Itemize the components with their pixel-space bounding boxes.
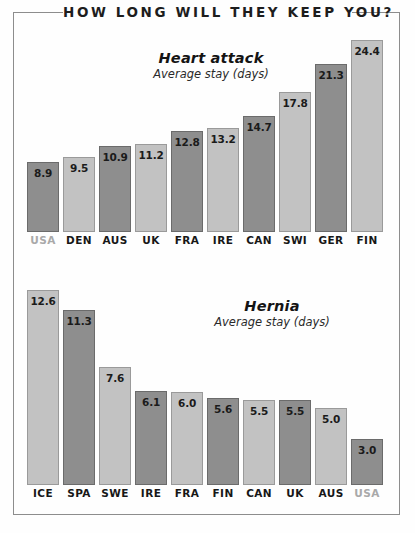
bar-swe[interactable]: 7.6 [99, 367, 131, 485]
bar-slot: 21.3 [315, 40, 347, 232]
axis-label-usa: USA [27, 234, 59, 247]
bar-can[interactable]: 14.7 [243, 116, 275, 232]
bar-ger[interactable]: 21.3 [315, 64, 347, 232]
axis-label-ire: IRE [135, 487, 167, 500]
bar-slot: 13.2 [207, 40, 239, 232]
axis-label-ire: IRE [207, 234, 239, 247]
axis-label-usa: USA [351, 487, 383, 500]
bar-swi[interactable]: 17.8 [279, 92, 311, 232]
bar-fra[interactable]: 12.8 [171, 131, 203, 232]
chart-hernia-category-axis: ICESPASWEIREFRAFINCANUKAUSUSA [27, 487, 387, 500]
bar-value-label: 6.1 [142, 396, 160, 408]
bar-value-label: 7.6 [106, 372, 124, 384]
bar-value-label: 10.9 [103, 151, 128, 163]
chart-hernia-plot-area: 12.611.37.66.16.05.65.55.55.03.0 [27, 290, 387, 485]
chart-heart-attack-plot-area: 8.99.510.911.212.813.214.717.821.324.4 [27, 40, 387, 232]
bar-slot: 12.6 [27, 290, 59, 485]
bar-value-label: 11.2 [139, 149, 164, 161]
bar-slot: 5.5 [279, 290, 311, 485]
bar-slot: 9.5 [63, 40, 95, 232]
bar-value-label: 5.5 [250, 405, 268, 417]
bar-value-label: 21.3 [319, 69, 344, 81]
bar-slot: 17.8 [279, 40, 311, 232]
bar-ice[interactable]: 12.6 [27, 290, 59, 485]
axis-label-fin: FIN [351, 234, 383, 247]
bar-value-label: 5.6 [214, 403, 232, 415]
axis-label-fra: FRA [171, 234, 203, 247]
axis-label-aus: AUS [99, 234, 131, 247]
bar-slot: 6.1 [135, 290, 167, 485]
bar-value-label: 9.5 [70, 162, 88, 174]
axis-label-fra: FRA [171, 487, 203, 500]
bar-value-label: 5.0 [322, 413, 340, 425]
axis-label-can: CAN [243, 234, 275, 247]
bar-slot: 3.0 [351, 290, 383, 485]
bar-ire[interactable]: 6.1 [135, 391, 167, 485]
bar-usa[interactable]: 8.9 [27, 162, 59, 232]
axis-label-swi: SWI [279, 234, 311, 247]
axis-label-ger: GER [315, 234, 347, 247]
bar-slot: 7.6 [99, 290, 131, 485]
bar-value-label: 17.8 [283, 97, 308, 109]
bar-slot: 24.4 [351, 40, 383, 232]
axis-label-ice: ICE [27, 487, 59, 500]
bar-ire[interactable]: 13.2 [207, 128, 239, 232]
poster-frame-top-left-rule [13, 12, 63, 13]
bar-value-label: 13.2 [211, 133, 236, 145]
bar-value-label: 11.3 [67, 315, 92, 327]
bar-can[interactable]: 5.5 [243, 400, 275, 485]
axis-label-uk: UK [135, 234, 167, 247]
axis-label-spa: SPA [63, 487, 95, 500]
bar-fra[interactable]: 6.0 [171, 392, 203, 485]
bar-value-label: 6.0 [178, 397, 196, 409]
bar-uk[interactable]: 5.5 [279, 400, 311, 485]
bar-aus[interactable]: 5.0 [315, 408, 347, 485]
bar-slot: 5.6 [207, 290, 239, 485]
poster-canvas: HOW LONG WILL THEY KEEP YOU? Heart attac… [0, 0, 415, 533]
bar-spa[interactable]: 11.3 [63, 310, 95, 485]
bar-slot: 8.9 [27, 40, 59, 232]
bar-slot: 10.9 [99, 40, 131, 232]
axis-label-aus: AUS [315, 487, 347, 500]
bar-slot: 5.0 [315, 290, 347, 485]
bar-value-label: 5.5 [286, 405, 304, 417]
chart-heart-attack-category-axis: USADENAUSUKFRAIRECANSWIGERFIN [27, 234, 387, 247]
bar-value-label: 12.6 [31, 295, 56, 307]
bar-slot: 14.7 [243, 40, 275, 232]
bar-slot: 6.0 [171, 290, 203, 485]
chart-hernia: Hernia Average stay (days) 12.611.37.66.… [27, 290, 387, 505]
bar-fin[interactable]: 5.6 [207, 398, 239, 485]
axis-label-fin: FIN [207, 487, 239, 500]
bar-slot: 11.2 [135, 40, 167, 232]
bar-aus[interactable]: 10.9 [99, 146, 131, 232]
bar-usa[interactable]: 3.0 [351, 439, 383, 485]
axis-label-den: DEN [63, 234, 95, 247]
axis-label-can: CAN [243, 487, 275, 500]
bar-value-label: 8.9 [34, 167, 52, 179]
bar-value-label: 14.7 [247, 121, 272, 133]
bar-fin[interactable]: 24.4 [351, 40, 383, 232]
bar-slot: 5.5 [243, 290, 275, 485]
bar-den[interactable]: 9.5 [63, 157, 95, 232]
bar-value-label: 24.4 [355, 45, 380, 57]
bar-value-label: 3.0 [358, 444, 376, 456]
bar-uk[interactable]: 11.2 [135, 144, 167, 232]
bar-slot: 12.8 [171, 40, 203, 232]
axis-label-swe: SWE [99, 487, 131, 500]
bar-value-label: 12.8 [175, 136, 200, 148]
bar-slot: 11.3 [63, 290, 95, 485]
axis-label-uk: UK [279, 487, 311, 500]
chart-heart-attack: Heart attack Average stay (days) 8.99.51… [27, 40, 387, 268]
page-title: HOW LONG WILL THEY KEEP YOU? [63, 3, 352, 21]
